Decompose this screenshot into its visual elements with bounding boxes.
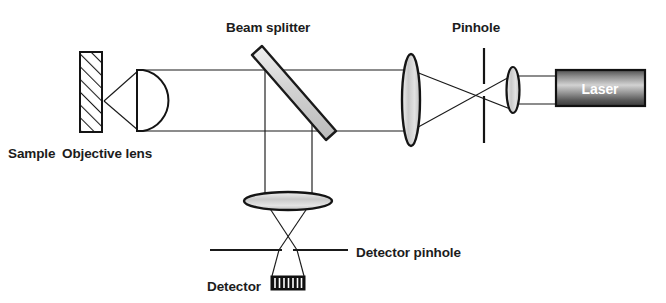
confocal-optical-path-diagram: Laser Sample Objec — [0, 0, 666, 303]
sample-label: Sample — [8, 146, 56, 161]
sample-block — [80, 52, 102, 132]
detector-stripes — [275, 278, 302, 288]
detector-diverging-ray-right — [297, 250, 304, 276]
detector-element — [271, 276, 305, 290]
laser-label: Laser — [582, 81, 620, 97]
collimating-lens-optic — [402, 54, 420, 146]
optical-diagram-container: Laser Sample Objec — [0, 0, 666, 303]
beam-rays — [104, 70, 556, 276]
objective-lens-label: Objective lens — [62, 146, 152, 161]
beam-expander-lens-optic — [507, 67, 520, 113]
objective-lens-shape — [137, 70, 168, 131]
beam-expander-lens-shape — [507, 67, 520, 113]
objective-lens-optic — [137, 70, 168, 131]
pinhole-label: Pinhole — [452, 20, 501, 35]
sample-hatched-rectangle — [80, 52, 102, 132]
detector-label: Detector — [207, 279, 262, 294]
objective-focus-ray-upper — [104, 70, 139, 101]
detector-diverging-ray-left — [272, 250, 279, 276]
laser-source: Laser — [556, 70, 645, 106]
collimating-lens-shape — [402, 54, 420, 146]
detector-lens-shape — [244, 192, 332, 210]
detector-pinhole-label: Detector pinhole — [356, 245, 462, 260]
beam-splitter-label: Beam splitter — [226, 20, 311, 35]
pinhole-converging-ray-upper — [411, 70, 513, 110]
pinhole-converging-ray-lower — [411, 75, 513, 131]
objective-focus-ray-lower — [104, 101, 139, 131]
detector-lens-optic — [244, 192, 332, 210]
